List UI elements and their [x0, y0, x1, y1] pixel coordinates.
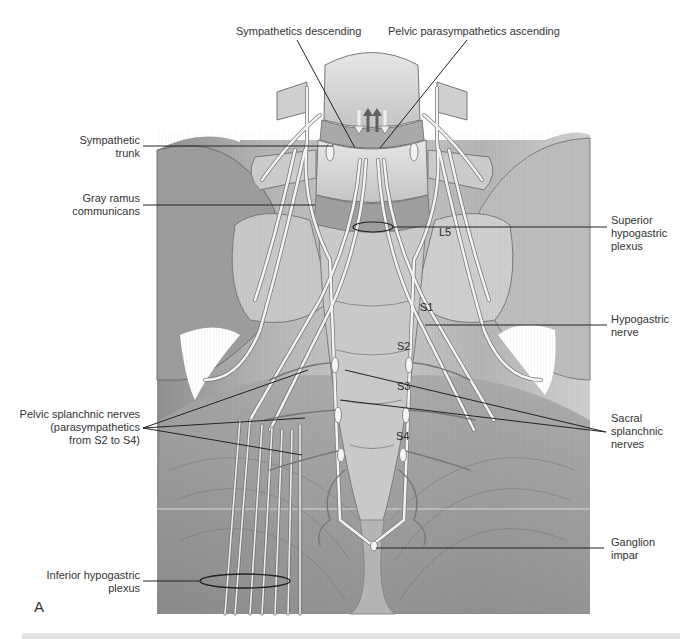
panel-letter: A: [34, 598, 44, 615]
label-superior-hypogastric-plexus: Superiorhypogastricplexus: [611, 214, 667, 253]
label-pelvic-parasympathetics-ascending: Pelvic parasympathetics ascending: [388, 25, 560, 38]
vertebra-label-s4: S4: [396, 430, 409, 442]
label-pelvic-splanchnic-nerves: Pelvic splanchnic nerves(parasympathetic…: [20, 408, 140, 447]
label-gray-ramus-communicans: Gray ramuscommunicans: [72, 192, 140, 218]
vertebra-label-s1: S1: [420, 301, 433, 313]
label-inferior-hypogastric-plexus: Inferior hypogastricplexus: [46, 569, 140, 595]
ganglion-impar-shape: [371, 541, 378, 551]
label-sympathetics-descending: Sympathetics descending: [236, 25, 361, 38]
caption-bar: [22, 633, 680, 639]
label-hypogastric-nerve: Hypogastricnerve: [611, 313, 669, 339]
label-sympathetic-trunk: Sympathetictrunk: [79, 134, 140, 160]
label-sacral-splanchnic-nerves: Sacralsplanchnicnerves: [611, 412, 663, 451]
pelvic-autonomic-nerves-illustration: [0, 0, 685, 639]
vertebra-label-l5: L5: [439, 226, 451, 238]
vertebra-label-s3: S3: [397, 380, 410, 392]
vertebra-label-s2: S2: [397, 340, 410, 352]
label-ganglion-impar: Ganglionimpar: [611, 536, 655, 562]
